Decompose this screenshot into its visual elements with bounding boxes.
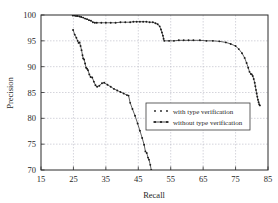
data-point [163,40,165,42]
data-point [256,96,258,98]
data-point [126,94,128,96]
data-point [134,115,136,117]
data-point [155,22,157,24]
legend-marker-line-dots [153,121,169,123]
data-point [136,21,138,23]
data-point [137,123,139,125]
data-point [252,75,254,77]
legend-label-without-type-verification: without type verification [173,119,243,127]
y-tick-label: 90 [28,62,37,72]
data-point [230,43,232,45]
data-point [107,84,109,86]
data-point [116,89,118,91]
x-tick-label: 55 [166,174,175,184]
data-point [162,35,164,37]
data-point [72,29,74,31]
y-tick-label: 80 [28,113,37,123]
data-point [80,45,82,47]
data-point [255,89,257,91]
legend-label-with-type-verification: with type verification [173,108,234,116]
data-point [95,84,97,86]
data-point [84,18,86,20]
data-point [132,21,134,23]
data-point [77,40,79,42]
data-point [93,81,95,83]
data-point [77,15,79,17]
precision-recall-chart: 1525354555657585 707580859095100 Recall … [0,0,278,203]
data-point [142,21,144,23]
data-point [128,95,130,97]
data-point [110,22,112,24]
data-point [241,52,243,54]
data-point [152,21,154,23]
legend: with type verification without type veri… [146,103,250,130]
data-point [212,40,214,42]
data-point [218,40,220,42]
data-point [105,22,107,24]
data-point [81,49,83,51]
data-point [157,23,159,25]
data-point [92,21,94,23]
data-point [123,93,125,95]
data-point [160,29,162,31]
data-point [103,82,105,84]
data-point [100,22,102,24]
x-axis-title: Recall [143,190,165,200]
data-point [91,77,93,79]
data-point [96,86,98,88]
chart-canvas: 1525354555657585 707580859095100 Recall … [0,0,278,203]
data-point [87,69,89,71]
data-point [159,25,161,27]
data-point [144,150,146,152]
data-point [101,82,103,84]
data-point [147,157,149,159]
data-point [247,67,249,69]
y-tick-label: 100 [23,10,36,20]
data-point [148,159,150,161]
data-point [110,86,112,88]
y-tick-label: 70 [28,165,37,175]
y-tick-label: 95 [28,36,37,46]
x-tick-label: 25 [69,174,78,184]
data-point [253,78,255,80]
data-point [86,18,88,20]
data-point [149,21,151,23]
data-point [244,57,246,59]
data-point [79,41,81,43]
data-point [238,48,240,50]
data-point [161,32,163,34]
data-point [225,41,227,43]
data-point [74,34,76,36]
x-tick-label: 35 [102,174,111,184]
data-point [129,102,131,104]
data-point [199,39,201,41]
data-point [257,99,259,101]
data-point [259,104,261,106]
y-tick-label: 75 [28,139,37,149]
data-point [246,62,248,64]
data-point [173,40,175,42]
data-point [129,21,131,23]
data-point [80,16,82,18]
data-point [90,20,92,22]
data-point [150,169,152,171]
x-tick-label: 85 [264,174,273,184]
data-point [96,22,98,24]
data-point [83,58,85,60]
data-point [139,21,141,23]
data-point [82,17,84,19]
data-point [120,21,122,23]
data-point [79,16,81,18]
data-point [254,85,256,87]
data-point [256,93,258,95]
data-point [124,21,126,23]
data-point [205,40,207,42]
data-point [254,82,256,84]
x-tick-label: 45 [134,174,143,184]
data-point [178,39,180,41]
data-point [115,22,117,24]
data-point [258,101,260,103]
data-point [90,76,92,78]
y-axis-title: Precision [5,76,15,108]
data-point [249,71,251,73]
